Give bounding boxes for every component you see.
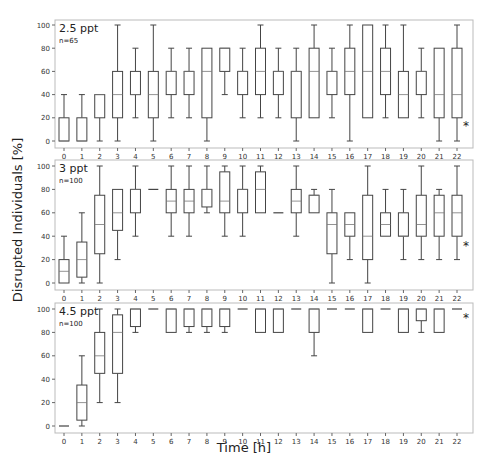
box-15 [327,189,337,283]
y-tick-label: 60 [41,352,50,360]
box-3 [113,189,123,259]
x-tick-label: 22 [453,295,462,303]
panel-title: 2.5 ppt [59,22,99,35]
x-tick-label: 9 [223,295,227,303]
x-tick-label: 17 [363,295,372,303]
y-tick-label: 0 [46,280,50,288]
box-1 [77,95,87,141]
box-15 [327,48,337,118]
y-tick-label: 20 [41,399,50,407]
box-20 [416,48,426,118]
box-19 [398,189,408,259]
significance-asterisk: * [463,119,469,133]
panel-title: 4.5 ppt [59,305,99,318]
box-3 [113,309,123,403]
box-14 [309,309,319,356]
y-tick-label: 100 [37,306,50,314]
x-tick-label: 14 [310,295,319,303]
panel-sample-size: n=65 [59,37,78,45]
y-tick-label: 40 [41,376,50,384]
box-6 [166,48,176,118]
y-tick-label: 60 [41,68,50,76]
box-20 [416,166,426,260]
box-10 [238,48,248,118]
y-axis-label: Disrupted Individuals [%] [2,150,32,290]
box-11 [256,309,266,332]
box-13 [291,48,301,141]
x-tick-label: 8 [205,295,209,303]
box-17 [363,25,373,118]
panel-title: 3 ppt [59,162,88,175]
x-tick-label: 11 [256,295,265,303]
y-tick-label: 0 [46,138,50,146]
x-tick-label: 12 [274,295,283,303]
box-13 [291,166,301,236]
box-9 [220,309,230,332]
box-4 [130,309,140,332]
x-tick-label: 0 [62,295,66,303]
significance-asterisk: * [463,239,469,253]
box-6 [166,309,176,332]
panel-0: 0204060801000123456789101112131415161718… [37,20,473,161]
y-tick-label: 20 [41,114,50,122]
box-16 [345,213,355,260]
x-tick-label: 3 [115,295,119,303]
y-tick-label: 80 [41,45,50,53]
y-tick-label: 60 [41,209,50,217]
box-19 [398,309,408,332]
box-1 [77,213,87,283]
box-19 [398,25,408,118]
x-tick-label: 5 [151,295,155,303]
panel-sample-size: n=100 [59,177,83,185]
box-2 [95,95,105,141]
box-16 [345,25,355,141]
x-tick-label: 16 [345,295,354,303]
y-tick-label: 80 [41,329,50,337]
x-tick-label: 10 [238,295,247,303]
box-7 [184,166,194,236]
box-0 [59,236,69,283]
y-tick-label: 0 [46,423,50,431]
box-9 [220,166,230,236]
x-tick-label: 2 [97,295,101,303]
significance-asterisk: * [463,311,469,325]
box-14 [309,25,319,118]
panel-1: 0204060801000123456789101112131415161718… [37,160,473,303]
x-tick-label: 4 [133,295,138,303]
x-tick-label: 21 [435,295,444,303]
box-1 [77,356,87,426]
box-14 [309,189,319,212]
box-22 [452,25,462,141]
x-tick-label: 7 [187,295,191,303]
y-tick-label: 100 [37,22,50,30]
box-18 [381,25,391,118]
box-2 [95,309,105,403]
box-21 [434,309,444,332]
x-tick-label: 13 [292,295,301,303]
box-12 [273,48,283,118]
x-tick-label: 15 [327,295,336,303]
box-3 [113,25,123,141]
box-7 [184,309,194,332]
box-2 [95,166,105,283]
box-17 [363,309,373,332]
box-4 [130,166,140,236]
panel-2: 0204060801000123456789101112131415161718… [37,303,473,446]
box-6 [166,166,176,236]
box-8 [202,309,212,332]
box-7 [184,48,194,118]
box-5 [148,25,158,141]
y-tick-label: 100 [37,163,50,171]
x-axis-label: Time [h] [0,440,488,455]
y-tick-label: 20 [41,256,50,264]
box-11 [256,166,266,213]
y-tick-label: 80 [41,186,50,194]
box-8 [202,48,212,141]
y-tick-label: 40 [41,91,50,99]
box-18 [381,189,391,236]
box-17 [363,166,373,283]
box-9 [220,48,230,94]
box-12 [273,309,283,332]
x-tick-label: 19 [399,295,408,303]
x-tick-label: 20 [417,295,426,303]
